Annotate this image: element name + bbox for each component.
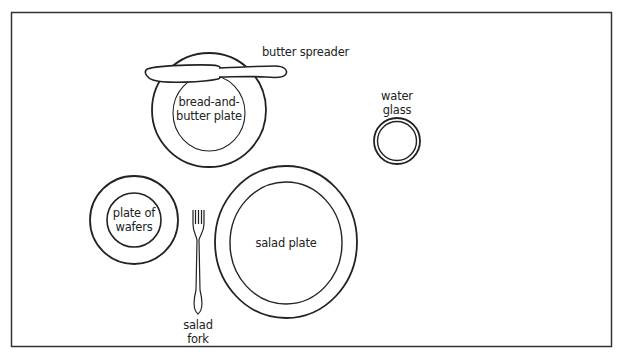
wafer-plate-label: plate of wafers — [104, 206, 164, 234]
bread-plate-label: bread-and- butter plate — [173, 95, 245, 123]
wafer-plate-label-line2: wafers — [104, 220, 164, 234]
bread-plate-label-line1: bread-and- — [173, 95, 245, 109]
salad-fork-label: salad fork — [178, 318, 218, 346]
bread-plate-label-line2: butter plate — [173, 109, 245, 123]
water-glass-label: water glass — [370, 89, 424, 117]
butter-spreader-text: butter spreader — [262, 45, 349, 59]
butter-spreader-label: butter spreader — [262, 45, 352, 59]
wafer-plate-label-line1: plate of — [104, 206, 164, 220]
salad-fork-shape — [193, 210, 204, 314]
water-glass-shape — [374, 118, 420, 164]
water-glass-label-line1: water — [370, 89, 424, 103]
salad-fork-label-line2: fork — [178, 332, 218, 346]
salad-plate-label: salad plate — [246, 236, 326, 250]
diagram-border — [12, 13, 612, 347]
water-glass-label-line2: glass — [370, 103, 424, 117]
salad-fork-label-line1: salad — [178, 318, 218, 332]
salad-plate-text: salad plate — [255, 236, 316, 250]
butter-spreader-shape — [145, 65, 286, 82]
